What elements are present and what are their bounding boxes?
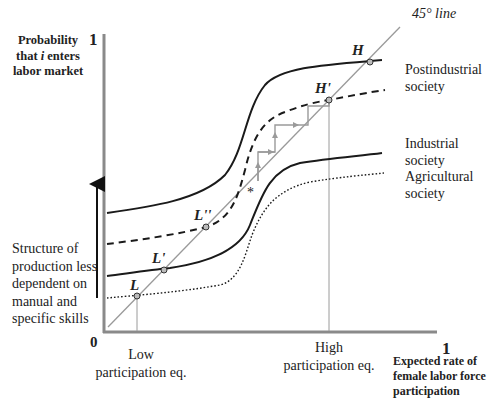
point-H1 [326, 97, 332, 103]
postindustrial-dashed-curve [107, 90, 385, 244]
label-H: H [352, 42, 364, 59]
label-unstable-eq: * [247, 185, 254, 201]
structure-note: Structure of production less dependent o… [12, 240, 112, 328]
postindustrial-curve [107, 60, 382, 213]
high-eq-label: High participation eq. [283, 339, 375, 374]
y-axis-label-line1: Probability [2, 33, 94, 49]
45-degree-line [108, 27, 400, 327]
label-L1: L' [152, 250, 165, 267]
45-degree-line-label: 45° line [412, 6, 456, 22]
label-H1: H' [315, 80, 331, 97]
label-L: L [130, 277, 139, 294]
agricultural-label: Agricultural society [405, 169, 473, 203]
y-axis-label-line2: that i enters [2, 49, 94, 65]
point-H [367, 59, 373, 65]
y-axis-label-line3: labor market [2, 64, 94, 80]
y-max-tick: 1 [89, 30, 98, 50]
adjustment-path [258, 100, 329, 181]
diagram: Probability that i enters labor market 1… [0, 0, 493, 406]
label-L2: L'' [194, 207, 212, 224]
x-axis-label: Expected rate of female labor force part… [393, 354, 486, 399]
point-L2 [203, 224, 209, 230]
agricultural-curve [107, 173, 384, 298]
y-axis-label: Probability that i enters labor market [2, 33, 94, 80]
point-L1 [161, 267, 167, 273]
postindustrial-label: Postindustrial society [405, 62, 482, 96]
low-eq-label: Low participation eq. [95, 346, 187, 381]
industrial-label: Industrial society [405, 136, 459, 170]
